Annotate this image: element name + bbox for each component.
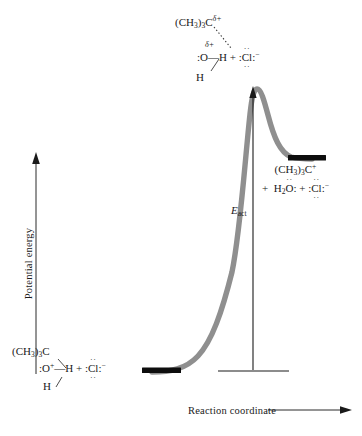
p-water-h: H	[274, 182, 282, 194]
r-plus-sign: +	[76, 362, 82, 374]
r-cl-charge: −	[101, 361, 105, 370]
ts-tertbutyl-group: (CH3)3Cδ+	[175, 14, 222, 30]
ts-delta-plus-carbon: δ+	[212, 14, 221, 23]
ts-frag-open: (CH	[175, 16, 194, 28]
p-plus-one: +	[262, 182, 268, 194]
product-label: (CH3)3C+ + H2··O: + :··Cl··:−	[262, 162, 329, 197]
y-axis-label: Potential energy	[23, 184, 34, 344]
ts-hydrogen-atom: H	[219, 51, 227, 63]
r-bond-dash: —	[54, 362, 65, 374]
p-plus-two: +	[299, 182, 305, 194]
reactant-tertbutyl-group: (CH3)3C	[12, 345, 49, 359]
reactant-label: (CH3)3C :O+—H + :··Cl··:− H	[12, 345, 49, 359]
ts-bond-dash: —	[208, 51, 219, 63]
p-cl-top-dots: ··	[313, 178, 320, 182]
ts-chloride-atom: ··Cl··	[242, 52, 252, 63]
r-cl-top-dots: ··	[90, 358, 97, 362]
transition-state-label: (CH3)3Cδ+ δ+ :O—H + :··Cl··:− H	[175, 14, 222, 30]
energy-profile-curve	[152, 89, 312, 372]
ts-cl-top-dots: ··	[244, 47, 251, 51]
reaction-coordinate-figure: Potential energy Reaction coordinate Eac…	[0, 0, 362, 436]
x-axis-label: Reaction coordinate	[188, 405, 276, 416]
p-cl-bottom-dots: ··	[313, 196, 320, 200]
r-cl-bottom-dots: ··	[90, 376, 97, 380]
p-frag-carbon: C	[305, 163, 312, 175]
r-frag-carbon: C	[42, 345, 49, 357]
ts-delta-plus-oxygen: δ+	[205, 40, 214, 50]
p-water-oxygen: ··O	[285, 183, 293, 194]
p-frag-open: (CH	[275, 163, 294, 175]
r-hydrogen-atom: H	[65, 362, 73, 374]
p-water-o-symbol: O	[285, 182, 293, 194]
reactant-lower-hydrogen: H	[43, 380, 51, 394]
eact-symbol: E	[231, 204, 238, 216]
p-cl-charge: −	[325, 181, 329, 190]
reactant-energy-level	[142, 368, 181, 374]
eact-sub: act	[238, 209, 247, 218]
ts-plus-sign: +	[230, 51, 236, 63]
ts-lower-hydrogen: H	[196, 71, 204, 85]
p-cation-charge: +	[312, 162, 316, 171]
reactant-oh-bond	[56, 377, 62, 387]
reactant-oxonium-chloride: :O+—H + :··Cl··:−	[39, 361, 106, 376]
r-oxygen-atom: O	[42, 362, 50, 374]
activation-energy-label: Eact	[231, 204, 246, 218]
ts-cl-bottom-dots: ··	[244, 65, 251, 69]
r-chloride-atom: ··Cl··	[88, 363, 98, 374]
ts-cl-charge: −	[255, 50, 259, 59]
product-energy-level	[288, 155, 326, 161]
p-water-top-dots: ··	[286, 178, 293, 182]
x-axis-arrow	[268, 406, 352, 413]
p-water-right-pair: :	[293, 182, 296, 194]
r-frag-open: (CH	[12, 345, 31, 357]
ts-oxygen-atom: O	[200, 51, 208, 63]
p-chloride-atom: ··Cl··	[311, 183, 321, 194]
ts-oxygen-hydrogen-chloride: δ+ :O—H + :··Cl··:−	[197, 50, 259, 65]
product-water-and-chloride: + H2··O: + :··Cl··:−	[262, 181, 329, 196]
